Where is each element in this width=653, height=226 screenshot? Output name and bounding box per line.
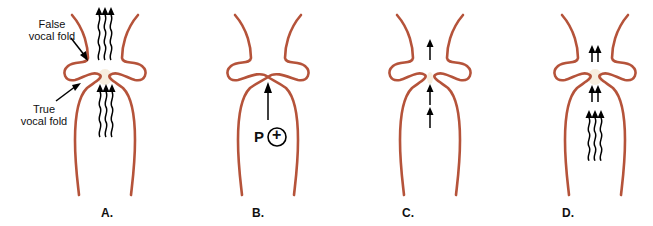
- panel-b-label: B.: [252, 206, 264, 220]
- lower-airflow-arrows: [97, 84, 116, 137]
- pressure-arrow: [264, 82, 272, 120]
- panel-d-larynx: [554, 15, 635, 195]
- false-fold-label-line2: vocal fold: [22, 30, 82, 42]
- false-fold-label-line1: False: [22, 18, 82, 30]
- true-fold-label-line1: True: [14, 103, 74, 115]
- true-fold-pointer: [56, 83, 81, 101]
- pressure-sign: +: [272, 126, 281, 144]
- lower-wavy-arrows: [586, 110, 605, 161]
- true-fold-label-line2: vocal fold: [14, 115, 74, 127]
- glottis-opening: [427, 72, 433, 84]
- panel-c-larynx: [389, 15, 470, 195]
- panel-a-label: A.: [101, 206, 113, 220]
- panel-c-label: C.: [402, 206, 414, 220]
- panel-d-label: D.: [562, 206, 574, 220]
- panel-b-larynx: [227, 15, 308, 195]
- true-vocal-fold-label: True vocal fold: [14, 103, 74, 127]
- middle-airflow-arrows: [589, 85, 602, 102]
- false-vocal-fold-label: False vocal fold: [22, 18, 82, 42]
- upper-airflow-arrows: [96, 7, 115, 60]
- pressure-symbol: P: [254, 128, 264, 145]
- larynx-diagram: [0, 0, 653, 226]
- upper-airflow-arrows: [589, 45, 602, 62]
